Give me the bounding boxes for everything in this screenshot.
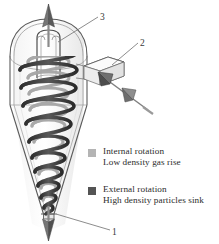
legend-entry-external-rotation: External rotation High density particles… xyxy=(88,184,204,205)
inlet-arrow-tail xyxy=(143,107,153,114)
underflow-arrowhead-left xyxy=(43,219,49,241)
legend-line-2: High density particles sink xyxy=(103,195,204,206)
legend-text-external-rotation: External rotation High density particles… xyxy=(103,184,204,205)
legend-entry-internal-rotation: Internal rotation Low density gas rise xyxy=(88,146,181,167)
legend-text-internal-rotation: Internal rotation Low density gas rise xyxy=(103,146,181,167)
callout-label-3: 3 xyxy=(100,12,105,22)
legend-swatch-external-rotation xyxy=(88,187,96,195)
leader-line-2 xyxy=(112,43,138,65)
cyclone-separator-diagram xyxy=(0,0,219,244)
inlet-flow-arrows xyxy=(98,72,153,114)
legend-swatch-internal-rotation xyxy=(88,149,96,157)
underflow-arrowhead-right xyxy=(49,219,55,241)
vessel-body-fill xyxy=(13,20,84,231)
outlet-arrowhead-left xyxy=(43,4,49,27)
legend-line-2: Low density gas rise xyxy=(103,157,181,168)
callout-label-1: 1 xyxy=(112,227,117,237)
callout-label-2: 2 xyxy=(140,38,145,48)
outlet-arrowhead-right xyxy=(49,4,55,27)
legend-line-1: External rotation xyxy=(103,184,204,195)
legend-line-1: Internal rotation xyxy=(103,146,181,157)
cyclone-vessel-outline xyxy=(10,19,87,231)
